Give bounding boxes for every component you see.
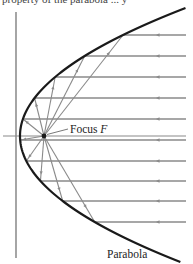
- caption-fragment: property of the parabola ... y: [2, 0, 127, 5]
- diagram-canvas: Focus F Parabola: [0, 0, 193, 264]
- parabola-reflection-diagram: property of the parabola ... y Focus F P…: [0, 0, 193, 264]
- arrow-left-icon: [156, 220, 160, 224]
- reflected-ray: [44, 35, 123, 136]
- arrow-left-icon: [156, 179, 160, 183]
- reflected-ray: [44, 136, 95, 222]
- parabola-label: Parabola: [107, 248, 147, 260]
- focus-label-text: Focus: [70, 123, 100, 135]
- arrow-left-icon: [156, 75, 160, 79]
- focus-point: [42, 134, 47, 139]
- arrow-left-icon: [156, 96, 160, 100]
- focus-leader-line: [47, 129, 68, 135]
- arrow-icon: [40, 171, 43, 174]
- focus-symbol: F: [99, 123, 108, 135]
- focus-label: Focus F: [70, 123, 108, 135]
- arrow-left-icon: [156, 199, 160, 203]
- arrow-left-icon: [156, 159, 160, 163]
- reflected-ray: [44, 136, 63, 201]
- arrow-left-icon: [156, 33, 160, 37]
- arrow-left-icon: [156, 138, 160, 142]
- arrow-left-icon: [156, 54, 160, 58]
- arrow-left-icon: [156, 117, 160, 121]
